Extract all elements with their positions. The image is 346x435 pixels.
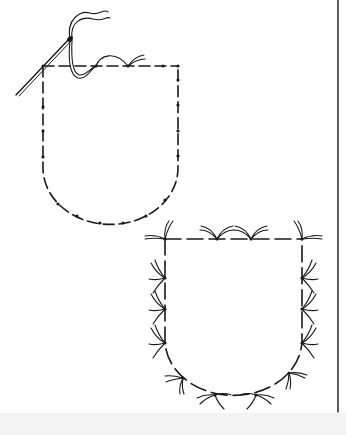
pocket-a-stitch-dots	[41, 64, 179, 224]
thread-icon	[69, 11, 145, 78]
footer-band	[0, 413, 346, 435]
sewing-diagram	[0, 0, 346, 413]
pocket-b-tack-points	[163, 237, 303, 396]
tailor-tacks	[145, 221, 322, 409]
pocket-a-outline	[43, 66, 178, 224]
pocket-b-outline	[165, 239, 302, 395]
diagram-canvas	[0, 0, 346, 413]
